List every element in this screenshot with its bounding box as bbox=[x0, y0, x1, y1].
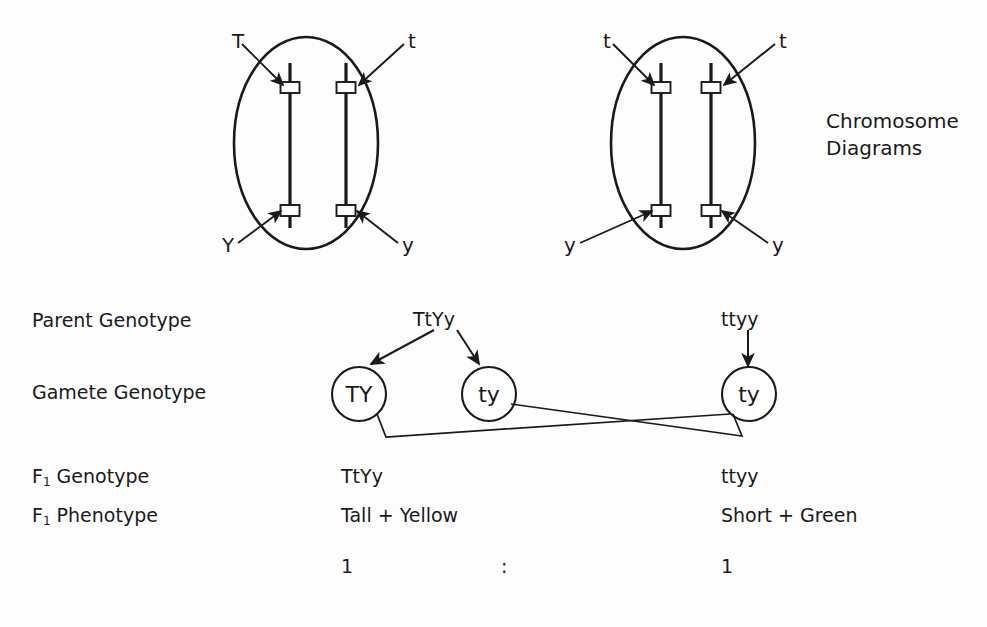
caption-line-1: Chromosome bbox=[826, 108, 976, 135]
right-cell-membrane bbox=[611, 37, 755, 249]
left-parent-cell-group bbox=[234, 37, 404, 249]
parent-genotype-left: TtYy bbox=[413, 309, 455, 330]
fertilisation-cross-lines bbox=[377, 404, 742, 437]
left-cell-arrow-y bbox=[357, 211, 398, 243]
chromosome-diagrams-caption: Chromosome Diagrams bbox=[826, 108, 976, 162]
f1-phenotype-left: Tall + Yellow bbox=[341, 505, 458, 526]
caption-line-2: Diagrams bbox=[826, 135, 976, 162]
left-cell-allele-label-Y: Y bbox=[222, 234, 234, 256]
left-cell-allele-label-y: y bbox=[402, 234, 414, 256]
row-label-f1-phenotype: F1 Phenotype bbox=[32, 505, 158, 526]
right-cell-locus-y-left bbox=[652, 205, 671, 216]
left-cell-arrow-t bbox=[359, 44, 404, 85]
row-label-f1-genotype-sub: 1 bbox=[43, 475, 51, 489]
right-cell-locus-y-right bbox=[702, 205, 721, 216]
left-cell-allele-label-T: T bbox=[232, 30, 244, 52]
right-cell-locus-t-right bbox=[702, 82, 721, 93]
meiosis-arrows-group bbox=[371, 330, 748, 366]
left-cell-membrane bbox=[234, 37, 378, 249]
f1-genotype-left: TtYy bbox=[341, 466, 383, 487]
row-label-f1-phenotype-sub: 1 bbox=[43, 514, 51, 528]
gamete-label-ty-right: ty bbox=[738, 382, 760, 407]
row-label-f1-genotype-head: F bbox=[32, 465, 43, 487]
ratio-separator: : bbox=[501, 556, 507, 577]
figure-canvas: TY ty ty T t Y y t t y y Chromosome Diag… bbox=[0, 0, 987, 627]
gamete-label-ty-middle: ty bbox=[478, 382, 500, 407]
row-label-f1-phenotype-head: F bbox=[32, 504, 43, 526]
right-cell-arrow-y-right bbox=[722, 211, 768, 243]
gamete-label-TY: TY bbox=[345, 382, 373, 407]
left-cell-locus-y bbox=[337, 205, 356, 216]
row-label-parent-genotype: Parent Genotype bbox=[32, 310, 191, 331]
arrow-left-parent-to-TY bbox=[371, 330, 434, 364]
ratio-left-value: 1 bbox=[341, 556, 353, 577]
cross-line-ty-middle-to-ty-right bbox=[511, 404, 742, 436]
left-cell-locus-Y bbox=[281, 205, 300, 216]
row-label-f1-genotype-tail: Genotype bbox=[51, 465, 150, 487]
left-cell-allele-label-t: t bbox=[408, 30, 416, 52]
right-cell-allele-label-t-right: t bbox=[779, 30, 787, 52]
right-parent-cell-group bbox=[580, 37, 775, 249]
ratio-right-value: 1 bbox=[721, 556, 733, 577]
right-cell-allele-label-y-left: y bbox=[564, 234, 576, 256]
right-cell-locus-t-left bbox=[652, 82, 671, 93]
cross-line-TY-to-ty-right bbox=[377, 414, 730, 437]
gamete-circles-group: TY ty ty bbox=[332, 367, 776, 421]
right-cell-allele-label-t-left: t bbox=[603, 30, 611, 52]
left-cell-locus-T bbox=[281, 82, 300, 93]
left-cell-locus-t bbox=[337, 82, 356, 93]
row-label-gamete-genotype: Gamete Genotype bbox=[32, 382, 206, 403]
row-label-f1-phenotype-tail: Phenotype bbox=[51, 504, 158, 526]
arrow-left-parent-to-ty bbox=[457, 330, 479, 364]
f1-phenotype-right: Short + Green bbox=[721, 505, 858, 526]
right-cell-arrow-y-left bbox=[580, 211, 652, 243]
right-cell-allele-label-y-right: y bbox=[772, 234, 784, 256]
row-label-f1-genotype: F1 Genotype bbox=[32, 466, 149, 487]
f1-genotype-right: ttyy bbox=[721, 466, 758, 487]
parent-genotype-right: ttyy bbox=[721, 309, 758, 330]
